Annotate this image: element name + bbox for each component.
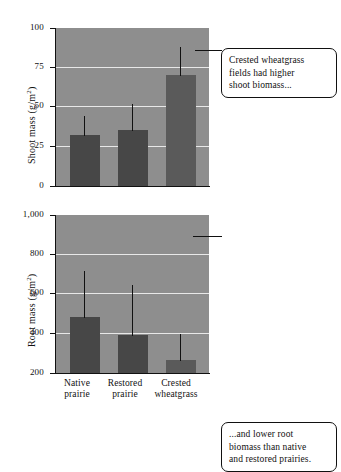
error-bar-native-prairie xyxy=(84,271,85,318)
y-tick-label-25: 25 xyxy=(0,141,44,150)
bar-restored-prairie xyxy=(118,130,148,186)
y-tick-label-200: 200 xyxy=(0,368,44,377)
bar-native-prairie xyxy=(70,317,100,373)
callout-line-2: biomass than native xyxy=(229,441,329,454)
callout-line-3: shoot biomass... xyxy=(229,79,329,92)
y-tick-label-1000: 1,000 xyxy=(0,210,44,219)
y-axis-title-shoot-mass: Shoot mass (g/m2) xyxy=(26,87,37,164)
y-tick-label-50: 50 xyxy=(0,101,44,110)
x-category-line-1: Crested xyxy=(143,378,209,389)
callout-line-1: Crested wheatgrass xyxy=(229,54,329,67)
error-bar-native-prairie xyxy=(84,116,85,136)
callout-line-3: and restored prairies. xyxy=(229,453,329,466)
y-axis-title-superscript: 2 xyxy=(25,277,33,281)
y-tick-label-0: 0 xyxy=(0,181,44,190)
y-tick-label-75: 75 xyxy=(0,62,44,71)
callout-leader-line-top xyxy=(195,50,222,51)
x-category-label-crested-wheatgrass: Crested wheatgrass xyxy=(143,378,209,400)
callout-line-1: ...and lower root xyxy=(229,428,329,441)
y-tick-label-400: 400 xyxy=(0,328,44,337)
chart-root-mass: Root mass (g/m2) 1,000 800 600 400 200 xyxy=(0,205,341,420)
y-axis-title-superscript: 2 xyxy=(25,90,33,94)
callout-line-2: fields had higher xyxy=(229,67,329,80)
callout-root-biomass: ...and lower root biomass than native an… xyxy=(221,422,337,472)
y-tick-label-600: 600 xyxy=(0,288,44,297)
callout-shoot-biomass: Crested wheatgrass fields had higher sho… xyxy=(221,48,337,98)
x-axis-line xyxy=(55,186,210,187)
x-category-line-2: wheatgrass xyxy=(143,389,209,400)
plot-area-shoot-mass xyxy=(56,28,209,186)
gridline-800 xyxy=(56,254,209,255)
plot-area-root-mass xyxy=(56,215,209,373)
bar-crested-wheatgrass xyxy=(166,360,196,373)
error-bar-crested-wheatgrass xyxy=(180,47,181,76)
y-axis-title-paren: ) xyxy=(26,87,37,91)
bar-native-prairie xyxy=(70,135,100,186)
bar-restored-prairie xyxy=(118,335,148,373)
error-bar-restored-prairie xyxy=(132,104,133,131)
callout-leader-line-bottom xyxy=(193,236,222,237)
y-tick-label-800: 800 xyxy=(0,249,44,258)
bar-crested-wheatgrass xyxy=(166,75,196,186)
error-bar-crested-wheatgrass xyxy=(180,334,181,361)
x-axis-line xyxy=(55,373,210,374)
error-bar-restored-prairie xyxy=(132,285,133,336)
y-tick-label-100: 100 xyxy=(0,23,44,32)
y-axis-title-paren: ) xyxy=(26,274,37,278)
gridline-75 xyxy=(56,67,209,68)
chart-shoot-mass: Shoot mass (g/m2) 100 75 50 25 0 xyxy=(0,18,341,198)
